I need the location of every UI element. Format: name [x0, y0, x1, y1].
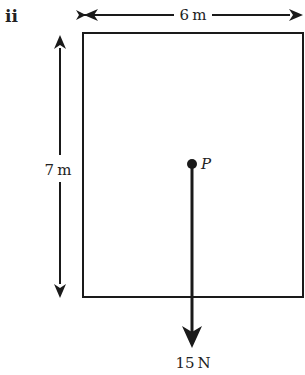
force-label: 15 N — [175, 354, 210, 372]
force-arrow — [182, 164, 202, 348]
part-label: ii — [5, 6, 18, 26]
width-label: 6 m — [180, 6, 207, 24]
height-label: 7 m — [45, 161, 72, 179]
diagram-canvas: ii 6 m 7 m P 15 N — [0, 0, 305, 375]
point-p-label: P — [200, 155, 212, 173]
